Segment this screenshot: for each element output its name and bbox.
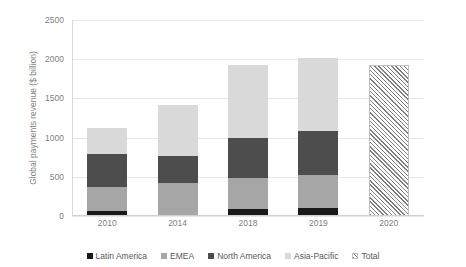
legend-label: EMEA bbox=[170, 251, 194, 261]
bar-segment bbox=[298, 58, 338, 131]
legend-item[interactable]: Latin America bbox=[87, 251, 148, 261]
stacked-bar-chart: Global payments revenue ($ billion) 0500… bbox=[0, 0, 466, 267]
y-axis-tick-label: 2000 bbox=[45, 54, 64, 64]
plot-area bbox=[72, 20, 424, 216]
bar-series-container bbox=[72, 20, 424, 216]
bar-segment bbox=[158, 105, 198, 155]
x-axis-tick-label: 2019 bbox=[309, 218, 328, 228]
y-axis-tick-label: 2500 bbox=[45, 15, 64, 25]
y-axis-tick-label: 0 bbox=[59, 211, 64, 221]
bar-segment bbox=[228, 65, 268, 138]
gridline bbox=[72, 216, 424, 217]
legend-label: Total bbox=[361, 251, 379, 261]
bar-segment bbox=[87, 154, 127, 187]
bar-segment bbox=[228, 178, 268, 209]
bar-stack bbox=[228, 65, 268, 216]
legend-item[interactable]: Asia-Pacific bbox=[285, 251, 338, 261]
bar-stack bbox=[298, 58, 338, 216]
legend-item[interactable]: North America bbox=[208, 251, 271, 261]
legend-swatch-icon bbox=[161, 253, 167, 259]
y-axis-tick-label: 1500 bbox=[45, 93, 64, 103]
x-axis-tick-label: 2020 bbox=[379, 218, 398, 228]
bar-segment bbox=[228, 138, 268, 179]
bar-segment bbox=[87, 128, 127, 154]
bar-stack bbox=[87, 128, 127, 216]
legend-label: North America bbox=[217, 251, 271, 261]
legend-label: Latin America bbox=[96, 251, 148, 261]
bar-segment bbox=[298, 175, 338, 208]
chart-legend: Latin AmericaEMEANorth AmericaAsia-Pacif… bbox=[0, 251, 466, 261]
x-axis-tick-label: 2010 bbox=[98, 218, 117, 228]
legend-item[interactable]: Total bbox=[352, 251, 379, 261]
bar-segment bbox=[158, 183, 198, 216]
y-axis-tick-label: 1000 bbox=[45, 133, 64, 143]
y-axis-ticks: 05001000150020002500 bbox=[0, 20, 72, 216]
bar-stack bbox=[158, 105, 198, 216]
bar-total bbox=[369, 65, 409, 216]
x-axis-tick-label: 2018 bbox=[239, 218, 258, 228]
legend-swatch-icon bbox=[208, 253, 214, 259]
x-axis-ticks: 20102014201820192020 bbox=[72, 218, 424, 234]
legend-label: Asia-Pacific bbox=[294, 251, 338, 261]
bar-segment bbox=[298, 131, 338, 175]
legend-swatch-icon bbox=[87, 253, 93, 259]
bar-segment bbox=[87, 187, 127, 211]
legend-swatch-icon bbox=[352, 253, 358, 259]
x-axis-tick-label: 2014 bbox=[168, 218, 187, 228]
y-axis-tick-label: 500 bbox=[50, 172, 64, 182]
legend-item[interactable]: EMEA bbox=[161, 251, 194, 261]
bar-segment bbox=[158, 156, 198, 183]
legend-swatch-icon bbox=[285, 253, 291, 259]
x-axis-line bbox=[72, 215, 424, 216]
